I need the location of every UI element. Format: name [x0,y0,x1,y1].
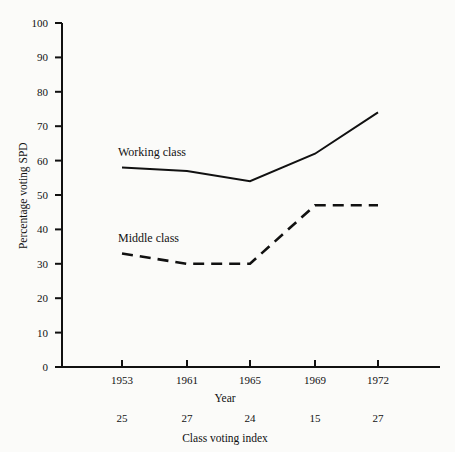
x-axis-ticks [122,360,378,367]
series-label-working-class: Working class [118,146,186,158]
y-axis-tick-label: 100 [18,18,48,29]
x-axis-tick-label: 1972 [348,375,408,386]
class-voting-index-value: 27 [157,413,217,424]
chart-axes [62,23,440,367]
y-axis-tick-label: 30 [18,259,48,270]
y-axis-tick-label: 80 [18,87,48,98]
y-axis-tick-label: 0 [18,362,48,373]
x-axis-tick-label: 1961 [157,375,217,386]
y-axis-tick-label: 50 [18,190,48,201]
y-axis-tick-label: 60 [18,156,48,167]
secondary-x-axis-title: Class voting index [170,433,280,445]
class-voting-index-value: 24 [220,413,280,424]
x-axis-title: Year [195,393,255,405]
chart-figure: Percentage voting SPD Year Class voting … [0,0,455,452]
class-voting-index-value: 25 [92,413,152,424]
series-label-middle-class: Middle class [118,232,179,244]
y-axis-tick-label: 70 [18,121,48,132]
y-axis-ticks [55,23,62,367]
x-axis-tick-label: 1953 [92,375,152,386]
class-voting-index-value: 27 [348,413,408,424]
y-axis-tick-label: 10 [18,328,48,339]
y-axis-tick-label: 40 [18,224,48,235]
x-axis-tick-label: 1965 [220,375,280,386]
x-axis-tick-label: 1969 [285,375,345,386]
y-axis-tick-label: 20 [18,293,48,304]
y-axis-tick-label: 90 [18,52,48,63]
class-voting-index-value: 15 [285,413,345,424]
